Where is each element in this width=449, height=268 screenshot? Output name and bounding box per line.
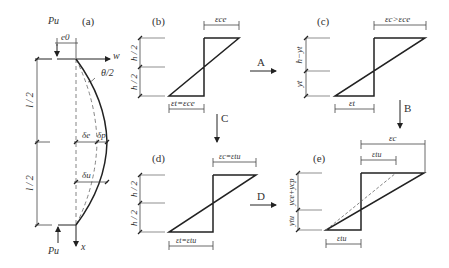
strain-diagram: (a) Pu e0 w θ/2 l / 2 l / 2 δe δp δu bbox=[0, 0, 449, 268]
eccentricity-label: e0 bbox=[61, 32, 70, 42]
panel-c: (c) h−yt yt εc>εce εt bbox=[294, 14, 426, 113]
transition-c-label: C bbox=[221, 112, 228, 124]
delta-p-label: δp bbox=[97, 130, 106, 140]
panel-c-label: (c) bbox=[317, 15, 330, 28]
bottom-strain-label: εt=εce bbox=[171, 98, 195, 108]
panel-b: (b) h / 2 h / 2 εce εt=εce bbox=[129, 14, 239, 113]
top-strain-label: εce bbox=[215, 14, 227, 24]
delta-u-label: δu bbox=[82, 170, 91, 180]
panel-a: (a) Pu e0 w θ/2 l / 2 l / 2 δe δp δu bbox=[24, 15, 120, 256]
dim-bottom-label: h / 2 bbox=[129, 210, 139, 227]
dim-top-label: h / 2 bbox=[129, 181, 139, 198]
bottom-strain-label: εt=εtu bbox=[176, 236, 196, 245]
dim-top-label: h / 2 bbox=[129, 45, 139, 62]
delta-e-label: δe bbox=[82, 130, 90, 140]
transition-a-label: A bbox=[257, 56, 265, 68]
strain-profile bbox=[335, 38, 425, 96]
panel-e-label: (e) bbox=[313, 152, 326, 165]
strain-profile bbox=[326, 173, 424, 230]
strain-profile bbox=[169, 38, 239, 96]
dim-bottom-label: h / 2 bbox=[129, 74, 139, 91]
panel-d-label: (d) bbox=[152, 152, 165, 165]
panel-d: (d) h / 2 h / 2 εc=εtu εt=εtu bbox=[129, 152, 256, 250]
load-bottom-label: Pu bbox=[47, 245, 59, 256]
transition-d-label: D bbox=[257, 190, 265, 202]
dim-top-label: yce+ycp bbox=[287, 178, 296, 206]
dim-bottom-label: ytu bbox=[287, 216, 296, 227]
load-top-label: Pu bbox=[47, 15, 59, 26]
dim-bottom-label: yt bbox=[294, 80, 304, 88]
dim-top-label: h−yt bbox=[294, 46, 304, 64]
x-axis-label: x bbox=[80, 241, 86, 252]
top-strain-outer-label: εc bbox=[389, 133, 397, 143]
rotation-label: θ/2 bbox=[101, 67, 114, 78]
bottom-strain-label: εt bbox=[349, 98, 356, 108]
panel-e: (e) yce+ycp ytu εc εtu εtu bbox=[287, 133, 425, 248]
half-length-bottom-label: l / 2 bbox=[24, 175, 35, 191]
panel-a-label: (a) bbox=[82, 15, 95, 28]
top-strain-label: εc=εtu bbox=[219, 152, 240, 161]
panel-b-label: (b) bbox=[152, 15, 165, 28]
strain-profile bbox=[169, 175, 256, 232]
bottom-strain-label: εtu bbox=[337, 234, 346, 243]
half-length-top-label: l / 2 bbox=[24, 92, 35, 108]
w-axis-label: w bbox=[113, 50, 120, 61]
top-strain-inner-label: εtu bbox=[372, 150, 381, 159]
transition-b-label: B bbox=[404, 102, 411, 114]
top-strain-label: εc>εce bbox=[385, 14, 410, 24]
